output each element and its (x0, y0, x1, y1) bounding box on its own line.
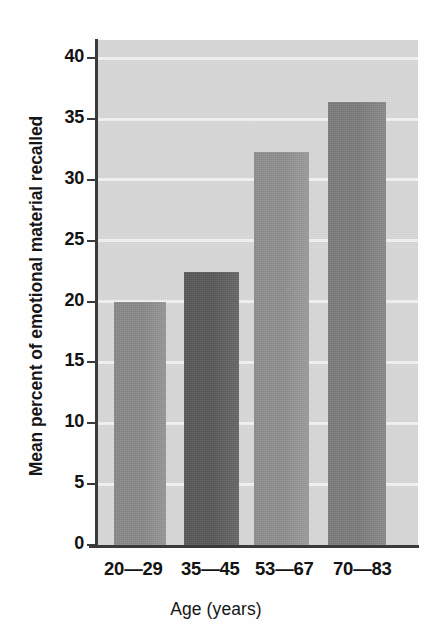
bar (254, 152, 309, 545)
y-axis-tick-label: 35 (42, 107, 84, 128)
plot-area (97, 40, 418, 545)
bar (328, 102, 386, 545)
x-axis-tick-label: 70—83 (333, 558, 392, 580)
bar-texture (114, 302, 166, 545)
scan-speck (293, 291, 297, 293)
x-axis-tick-label: 20—29 (104, 558, 163, 580)
y-axis-tick-label: 5 (42, 472, 84, 493)
bar-texture (254, 152, 309, 545)
y-axis-tick-label: 0 (42, 533, 84, 554)
y-axis-tick-label: 30 (42, 168, 84, 189)
figure-root: Mean percent of emotional material recal… (0, 0, 432, 644)
bar-texture (328, 102, 386, 545)
y-axis-tick (87, 361, 96, 363)
y-axis-tick (87, 544, 96, 546)
y-axis-line (95, 39, 98, 547)
y-axis-tick (87, 483, 96, 485)
y-axis-tick (87, 422, 96, 424)
x-axis-title: Age (years) (0, 599, 432, 620)
y-axis-tick-label: 15 (42, 350, 84, 371)
x-axis-tick-label: 53—67 (255, 558, 314, 580)
bar (114, 302, 166, 545)
y-axis-tick (87, 240, 96, 242)
scan-speck (286, 288, 291, 291)
y-axis-tick (87, 301, 96, 303)
gridline (97, 57, 418, 60)
y-axis-tick-label: 40 (42, 46, 84, 67)
x-axis-tick-labels: 20—2935—4553—6770—83 (0, 558, 432, 584)
y-axis-tick-label: 25 (42, 229, 84, 250)
x-axis-line (89, 545, 419, 548)
y-axis-tick-labels: 0510152025303540 (38, 0, 84, 644)
y-axis-tick (87, 179, 96, 181)
y-axis-tick-label: 10 (42, 411, 84, 432)
y-axis-tick-label: 20 (42, 290, 84, 311)
y-axis-tick (87, 118, 96, 120)
y-axis-tick (87, 57, 96, 59)
bar (184, 272, 239, 545)
x-axis-tick-label: 35—45 (181, 558, 240, 580)
bar-texture (184, 272, 239, 545)
